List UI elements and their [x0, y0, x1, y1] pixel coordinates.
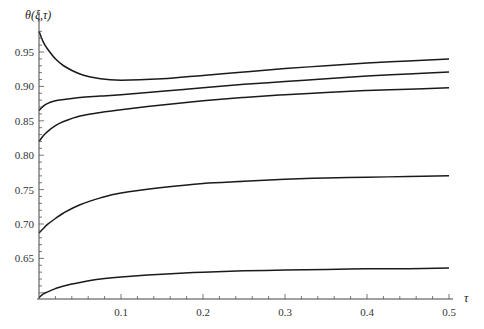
x-tick-label: 0.3	[278, 306, 292, 318]
y-ticks: 0.650.700.750.800.850.900.95	[15, 31, 44, 292]
chart: 0.650.700.750.800.850.900.95 0.10.20.30.…	[0, 0, 484, 329]
y-tick-label: 0.90	[15, 80, 35, 92]
series-line-curve-4	[39, 176, 449, 233]
y-tick-label: 0.80	[15, 149, 35, 161]
x-tick-label: 0.1	[114, 306, 128, 318]
y-axis-title: θ(ξ,τ)	[25, 8, 51, 22]
y-tick-label: 0.75	[15, 184, 35, 196]
series-line-curve-5	[39, 268, 449, 298]
y-tick-label: 0.95	[15, 46, 35, 58]
curves-layer	[39, 31, 449, 297]
x-ticks: 0.10.20.30.40.5	[55, 294, 456, 318]
y-tick-label: 0.65	[15, 252, 35, 264]
x-tick-label: 0.5	[442, 306, 456, 318]
y-tick-label: 0.85	[15, 115, 35, 127]
x-axis-title: τ	[464, 291, 469, 305]
x-tick-label: 0.4	[360, 306, 374, 318]
series-line-curve-1	[39, 31, 449, 80]
y-tick-label: 0.70	[15, 218, 35, 230]
series-line-curve-2	[39, 72, 449, 111]
x-tick-label: 0.2	[196, 306, 210, 318]
